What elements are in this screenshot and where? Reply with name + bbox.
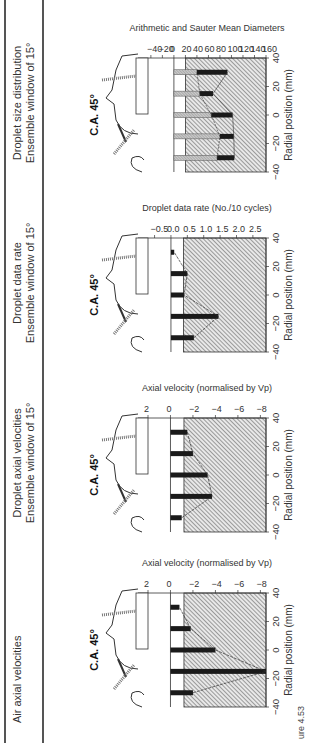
svg-text:40: 40 xyxy=(270,413,281,424)
svg-text:−40: −40 xyxy=(270,344,281,360)
svg-text:1.0: 1.0 xyxy=(200,224,213,234)
svg-text:0: 0 xyxy=(166,404,171,414)
svg-text:20: 20 xyxy=(270,616,281,627)
svg-text:40: 40 xyxy=(270,53,281,64)
svg-text:Radial position (mm): Radial position (mm) xyxy=(283,604,294,696)
svg-text:C.A. 45°: C.A. 45° xyxy=(88,94,100,136)
svg-text:Axial velocity (normalised by: Axial velocity (normalised by Vp) xyxy=(142,558,272,568)
svg-text:20: 20 xyxy=(270,81,281,92)
svg-text:−8: −8 xyxy=(256,404,266,414)
svg-text:−6: −6 xyxy=(234,404,244,414)
header-rule xyxy=(42,0,44,743)
svg-text:Radial position (mm): Radial position (mm) xyxy=(283,429,294,521)
svg-text:Arithmetic and Sauter Mean Dia: Arithmetic and Sauter Mean Diameters xyxy=(129,23,285,33)
svg-text:2.0: 2.0 xyxy=(233,224,246,234)
svg-text:0: 0 xyxy=(270,112,281,117)
svg-text:Droplet data rate (No./10 cycl: Droplet data rate (No./10 cycles) xyxy=(142,203,272,213)
svg-text:−40: −40 xyxy=(270,524,281,540)
svg-text:1.5: 1.5 xyxy=(216,224,229,234)
column-title: Air axial velocities xyxy=(11,553,24,723)
svg-text:60: 60 xyxy=(204,44,214,54)
svg-text:20: 20 xyxy=(270,261,281,272)
svg-text:0: 0 xyxy=(270,292,281,297)
column-header-size: Droplet size distribution Ensemble windo… xyxy=(11,18,37,188)
top-rule xyxy=(4,0,6,743)
chart-droplet-data-rate: −40−2002040Radial position (mm)−0.50.00.… xyxy=(56,198,306,368)
svg-text:0: 0 xyxy=(170,44,175,54)
svg-text:−8: −8 xyxy=(256,579,266,589)
svg-text:−20: −20 xyxy=(270,670,281,686)
svg-text:−40: −40 xyxy=(270,164,281,180)
svg-text:0: 0 xyxy=(270,472,281,477)
svg-text:0: 0 xyxy=(270,647,281,652)
svg-text:−20: −20 xyxy=(270,135,281,151)
column-header-air: Air axial velocities xyxy=(11,553,24,723)
svg-text:−40: −40 xyxy=(270,699,281,715)
svg-text:Radial position (mm): Radial position (mm) xyxy=(283,69,294,161)
column-title: Droplet data rate xyxy=(11,198,24,368)
svg-text:C.A. 45°: C.A. 45° xyxy=(88,629,100,671)
column-subtitle: Ensemble window of 15° xyxy=(24,378,37,548)
svg-text:−20: −20 xyxy=(270,495,281,511)
chart-droplet-size: −40−2002040Radial position (mm)−40−20020… xyxy=(56,18,306,188)
svg-text:−20: −20 xyxy=(270,315,281,331)
svg-text:2: 2 xyxy=(144,404,149,414)
column-subtitle: Ensemble window of 15° xyxy=(24,18,37,188)
column-subtitle: Ensemble window of 15° xyxy=(24,198,37,368)
svg-text:−4: −4 xyxy=(211,579,221,589)
svg-text:−2: −2 xyxy=(189,404,199,414)
svg-text:20: 20 xyxy=(181,44,191,54)
svg-text:−2: −2 xyxy=(189,579,199,589)
svg-text:0: 0 xyxy=(166,579,171,589)
svg-text:−6: −6 xyxy=(234,579,244,589)
svg-text:80: 80 xyxy=(216,44,226,54)
svg-text:2.5: 2.5 xyxy=(249,224,262,234)
svg-text:−0.5: −0.5 xyxy=(151,224,169,234)
svg-text:−4: −4 xyxy=(211,404,221,414)
column-header-data-rate: Droplet data rate Ensemble window of 15° xyxy=(11,198,37,368)
svg-text:C.A. 45°: C.A. 45° xyxy=(88,274,100,316)
svg-text:Radial position (mm): Radial position (mm) xyxy=(283,249,294,341)
svg-text:0.5: 0.5 xyxy=(183,224,196,234)
svg-text:40: 40 xyxy=(193,44,203,54)
chart-droplet-velocity: −40−2002040Radial position (mm)20−2−4−6−… xyxy=(56,378,306,548)
figure-page: Air axial velocities Droplet axial veloc… xyxy=(0,0,314,743)
svg-text:2: 2 xyxy=(144,579,149,589)
column-title: Droplet axial velocities xyxy=(11,378,24,548)
svg-text:0.0: 0.0 xyxy=(167,224,180,234)
column-header-droplet-velocity: Droplet axial velocities Ensemble window… xyxy=(11,378,37,548)
svg-text:Axial velocity (normalised by: Axial velocity (normalised by Vp) xyxy=(142,383,272,393)
svg-text:40: 40 xyxy=(270,588,281,599)
svg-text:160: 160 xyxy=(262,44,277,54)
svg-text:C.A. 45°: C.A. 45° xyxy=(88,454,100,496)
column-title: Droplet size distribution xyxy=(11,18,24,188)
svg-text:20: 20 xyxy=(270,441,281,452)
svg-text:40: 40 xyxy=(270,233,281,244)
figure-caption: ure 4.53 xyxy=(296,706,306,739)
chart-air-velocity: −40−2002040Radial position (mm)20−2−4−6−… xyxy=(56,553,306,723)
